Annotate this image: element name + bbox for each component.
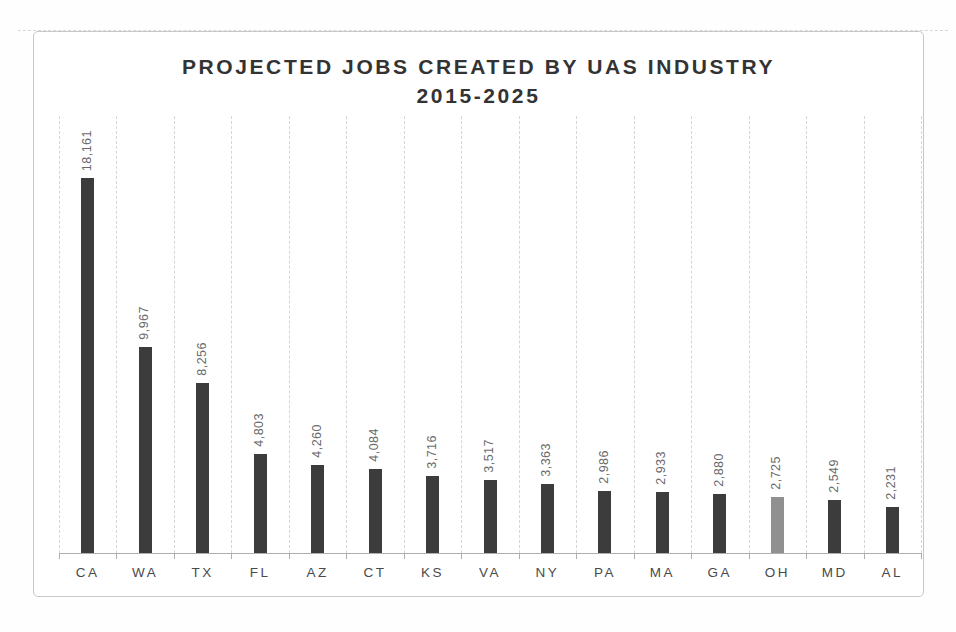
category-boundary-gridline <box>174 116 175 553</box>
x-axis-label-tx: TX <box>174 565 232 580</box>
bar-ks <box>426 476 439 553</box>
x-axis-label-ca: CA <box>59 565 117 580</box>
category-boundary-gridline <box>634 116 635 553</box>
bar-value-label-ny: 3,363 <box>539 443 553 477</box>
chart-frame: PROJECTED JOBS CREATED BY UAS INDUSTRY 2… <box>33 31 924 597</box>
category-boundary-gridline <box>749 116 750 553</box>
x-axis-label-az: AZ <box>289 565 347 580</box>
x-axis-label-ma: MA <box>633 565 691 580</box>
bar-value-label-ks: 3,716 <box>425 435 439 469</box>
bar-value-label-al: 2,231 <box>884 466 898 500</box>
bar-ma <box>656 492 669 553</box>
bar-value-label-wa: 9,967 <box>137 306 151 340</box>
bar-oh <box>771 497 784 553</box>
bar-wa <box>139 347 152 553</box>
bar-fl <box>254 454 267 553</box>
category-boundary-gridline <box>116 116 117 553</box>
x-axis-label-pa: PA <box>576 565 634 580</box>
x-axis-label-ga: GA <box>691 565 749 580</box>
x-axis-label-wa: WA <box>116 565 174 580</box>
category-boundary-gridline <box>576 116 577 553</box>
bar-value-label-pa: 2,986 <box>597 450 611 484</box>
category-boundary-gridline <box>921 116 922 553</box>
x-axis-label-md: MD <box>806 565 864 580</box>
bar-va <box>484 480 497 553</box>
x-axis-label-ny: NY <box>518 565 576 580</box>
bar-ny <box>541 484 554 553</box>
x-axis-tick <box>921 553 922 559</box>
bar-value-label-md: 2,549 <box>827 459 841 493</box>
category-boundary-gridline <box>519 116 520 553</box>
bar-tx <box>196 383 209 553</box>
category-boundary-gridline <box>691 116 692 553</box>
category-boundary-gridline <box>864 116 865 553</box>
bar-value-label-ga: 2,880 <box>712 453 726 487</box>
x-axis-label-ks: KS <box>404 565 462 580</box>
category-boundary-gridline <box>289 116 290 553</box>
bar-ga <box>713 494 726 553</box>
bar-ct <box>369 469 382 553</box>
category-boundary-gridline <box>59 116 60 553</box>
bar-value-label-ma: 2,933 <box>654 451 668 485</box>
bar-ca <box>81 178 94 553</box>
bar-az <box>311 465 324 553</box>
bar-value-label-ct: 4,084 <box>367 428 381 462</box>
bar-value-label-tx: 8,256 <box>195 342 209 376</box>
x-axis-line <box>59 553 921 554</box>
category-boundary-gridline <box>346 116 347 553</box>
bar-value-label-fl: 4,803 <box>252 413 266 447</box>
bar-value-label-va: 3,517 <box>482 439 496 473</box>
bar-value-label-ca: 18,161 <box>80 130 94 171</box>
x-axis-label-ct: CT <box>346 565 404 580</box>
category-boundary-gridline <box>231 116 232 553</box>
scanned-page: PROJECTED JOBS CREATED BY UAS INDUSTRY 2… <box>0 0 956 632</box>
bar-md <box>828 500 841 553</box>
bar-value-label-az: 4,260 <box>310 424 324 458</box>
x-axis-label-va: VA <box>461 565 519 580</box>
plot-area: 18,161CA9,967WA8,256TX4,803FL4,260AZ4,08… <box>34 32 923 596</box>
x-axis-label-al: AL <box>863 565 921 580</box>
x-axis-label-oh: OH <box>748 565 806 580</box>
category-boundary-gridline <box>806 116 807 553</box>
x-axis-label-fl: FL <box>231 565 289 580</box>
bar-pa <box>598 491 611 553</box>
bar-al <box>886 507 899 553</box>
bar-value-label-oh: 2,725 <box>769 456 783 490</box>
category-boundary-gridline <box>404 116 405 553</box>
category-boundary-gridline <box>461 116 462 553</box>
